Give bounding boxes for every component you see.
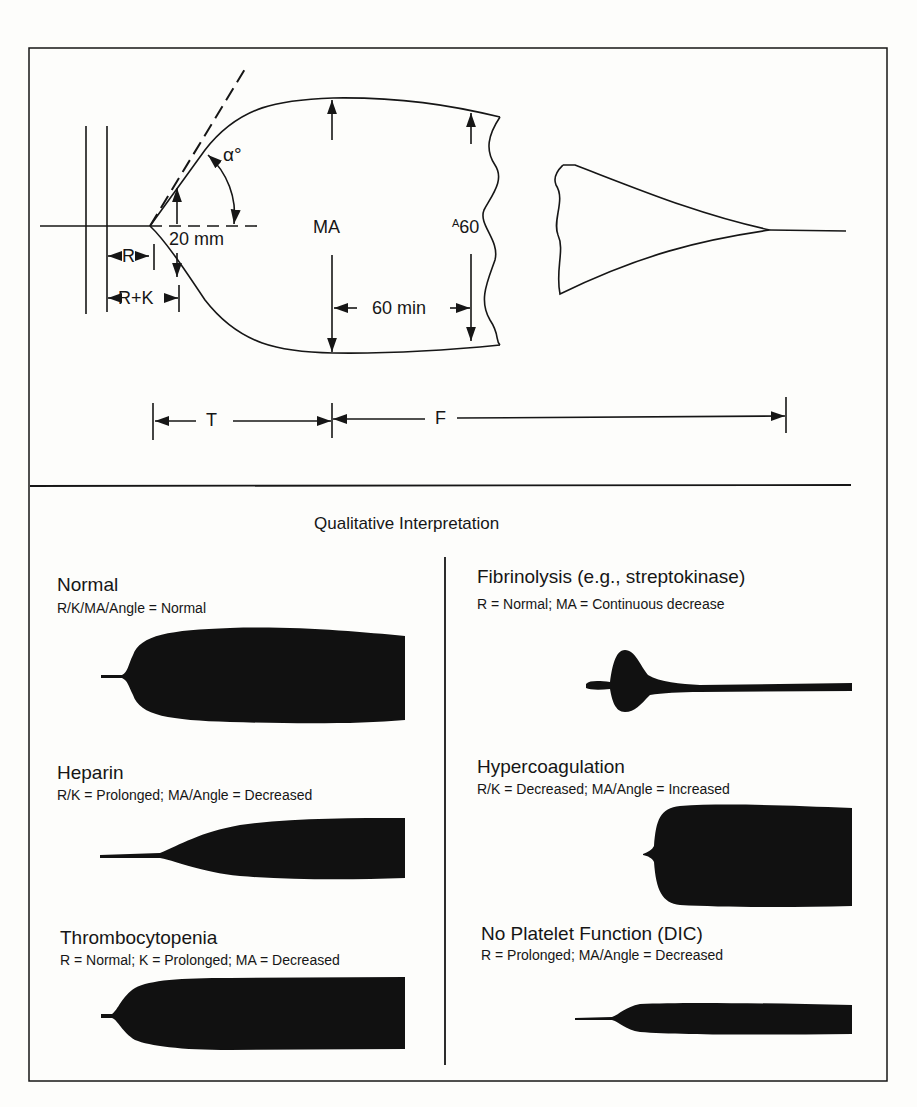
a60-suffix: 60 [459,217,479,237]
dic-desc: R = Prolonged; MA/Angle = Decreased [481,948,723,962]
fibrinolysis-title: Fibrinolysis (e.g., streptokinase) [477,567,745,586]
heparin-title: Heparin [57,763,124,782]
fibrinolysis-tracing [586,650,852,712]
thrombocytopenia-title: Thrombocytopenia [60,928,217,947]
f-label: F [435,409,446,427]
hypercoagulation-tracing [643,805,852,908]
heparin-tracing [100,818,405,879]
normal-desc: R/K/MA/Angle = Normal [57,601,206,615]
t-label: T [206,411,217,429]
thrombocytopenia-tracing [101,977,405,1050]
lysis-fragment [555,165,770,294]
a60-label: A60 [452,218,479,236]
sixty-min-label: 60 min [372,299,426,317]
alpha-label: α° [223,145,242,164]
break-edge [483,117,500,345]
heparin-desc: R/K = Prolonged; MA/Angle = Decreased [57,788,312,802]
normal-title: Normal [57,575,118,594]
twenty-mm-label: 20 mm [169,230,224,248]
fibrinolysis-desc: R = Normal; MA = Continuous decrease [477,597,724,611]
dic-title: No Platelet Function (DIC) [481,924,703,943]
r-label: R [122,247,135,265]
tracing-upper [150,98,500,226]
thrombocytopenia-desc: R = Normal; K = Prolonged; MA = Decrease… [60,953,340,967]
hypercoagulation-desc: R/K = Decreased; MA/Angle = Increased [477,782,730,796]
dic-tracing [575,1003,852,1035]
normal-tracing [101,628,405,724]
section-title: Qualitative Interpretation [314,515,499,532]
r-plus-k-label: R+K [118,289,154,307]
ma-label: MA [313,218,340,236]
teg-diagram: α° 20 mm MA A60 60 min R R+K T F Qualita… [0,0,917,1107]
hypercoagulation-title: Hypercoagulation [477,757,625,776]
section-divider [30,485,851,486]
